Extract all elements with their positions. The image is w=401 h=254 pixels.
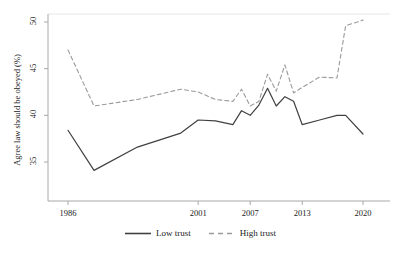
legend-swatch-dashed (209, 230, 235, 237)
series-line-high-trust (68, 20, 363, 106)
chart-legend: Low trust High trust (0, 228, 401, 238)
x-tick-marks (68, 201, 363, 205)
x-tick-label: 2020 (343, 208, 383, 218)
legend-swatch-solid (125, 230, 151, 237)
legend-label-high-trust: High trust (240, 228, 276, 238)
y-tick-label: 45 (28, 57, 38, 79)
chart-figure: Agree law should be obeyed (%) 35404550 … (0, 0, 401, 254)
data-series-group (68, 20, 363, 170)
y-tick-label: 50 (28, 10, 38, 32)
x-tick-label: 2007 (230, 208, 270, 218)
x-tick-label: 2013 (282, 208, 322, 218)
legend-label-low-trust: Low trust (156, 228, 191, 238)
series-line-low-trust (68, 88, 363, 170)
y-tick-label: 35 (28, 150, 38, 172)
y-tick-label: 40 (28, 103, 38, 125)
x-tick-label: 1986 (48, 208, 88, 218)
legend-item-high-trust: High trust (209, 228, 276, 238)
x-tick-label: 2001 (178, 208, 218, 218)
axes (48, 14, 390, 201)
y-axis-title: Agree law should be obeyed (%) (12, 30, 22, 190)
y-tick-marks (44, 22, 48, 162)
legend-item-low-trust: Low trust (125, 228, 191, 238)
